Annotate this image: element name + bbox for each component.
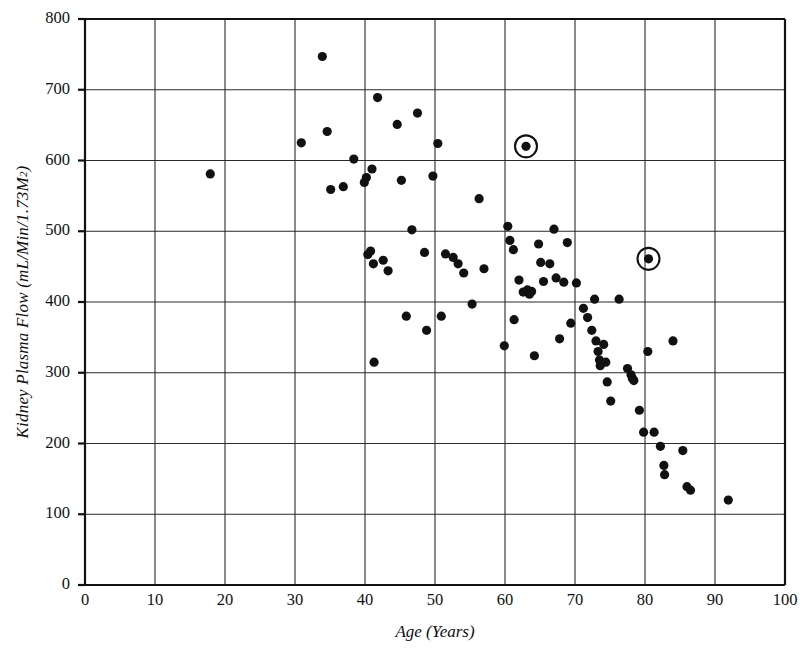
data-point (323, 127, 332, 136)
data-point (367, 164, 376, 173)
data-point (629, 376, 638, 385)
data-point (656, 442, 665, 451)
data-point (479, 264, 488, 273)
data-point (590, 295, 599, 304)
data-point (206, 169, 215, 178)
data-point (579, 304, 588, 313)
data-point (536, 258, 545, 267)
data-point (422, 326, 431, 335)
data-point (643, 347, 652, 356)
data-point (555, 334, 564, 343)
data-point (318, 52, 327, 61)
data-point (530, 351, 539, 360)
data-point (563, 238, 572, 247)
data-point (686, 486, 695, 495)
data-point (379, 256, 388, 265)
data-point (468, 300, 477, 309)
data-point (615, 295, 624, 304)
data-point (545, 259, 554, 268)
data-point (724, 496, 733, 505)
data-point (527, 287, 536, 296)
data-point (369, 259, 378, 268)
data-point (587, 326, 596, 335)
data-point (428, 171, 437, 180)
data-point (509, 315, 518, 324)
data-point (549, 225, 558, 234)
data-point (370, 358, 379, 367)
data-point (566, 319, 575, 328)
data-point (678, 446, 687, 455)
data-point (650, 428, 659, 437)
data-point (454, 259, 463, 268)
data-point (660, 470, 669, 479)
data-point (668, 336, 677, 345)
data-point (559, 278, 568, 287)
data-point (413, 109, 422, 118)
data-point (297, 138, 306, 147)
data-point (644, 254, 653, 263)
highlighted-data-points (515, 135, 660, 269)
data-point (407, 225, 416, 234)
data-point (397, 176, 406, 185)
data-point (349, 154, 358, 163)
data-point (534, 239, 543, 248)
data-point (384, 266, 393, 275)
data-point (373, 93, 382, 102)
data-point (420, 248, 429, 257)
data-point (601, 358, 610, 367)
data-point (503, 222, 512, 231)
data-point (599, 340, 608, 349)
data-point (514, 275, 523, 284)
data-point (521, 142, 530, 151)
data-point (635, 406, 644, 415)
data-point (437, 312, 446, 321)
data-point (603, 377, 612, 386)
data-points (206, 52, 733, 505)
data-point (539, 277, 548, 286)
data-point (639, 428, 648, 437)
data-point (366, 246, 375, 255)
data-point (339, 182, 348, 191)
data-point (433, 139, 442, 148)
data-point (326, 185, 335, 194)
data-point (572, 278, 581, 287)
data-point (393, 120, 402, 129)
data-point (505, 236, 514, 245)
data-point (659, 461, 668, 470)
data-point (583, 313, 592, 322)
data-point (500, 341, 509, 350)
data-point (606, 396, 615, 405)
data-point (402, 312, 411, 321)
data-point (509, 245, 518, 254)
data-point (475, 194, 484, 203)
grid-lines (85, 19, 785, 585)
data-point (459, 268, 468, 277)
data-point (362, 173, 371, 182)
